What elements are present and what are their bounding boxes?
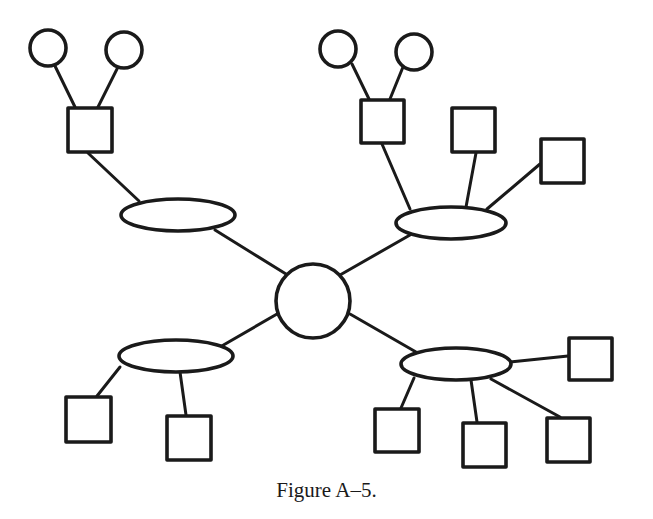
edge-circle-tr-1-to-square-tr-1 — [352, 64, 369, 99]
figure-caption: Figure A–5. — [0, 478, 653, 503]
edge-ellipse-top-right-to-hub — [340, 235, 410, 275]
edge-ellipse-bottom-right-to-square-br-1 — [510, 356, 568, 362]
square-tr-3 — [541, 139, 584, 183]
network-topology-diagram — [0, 0, 653, 519]
hub-circle — [276, 264, 350, 338]
edge-ellipse-bottom-left-to-square-bl-2 — [180, 372, 186, 415]
square-bl-1 — [66, 397, 111, 442]
square-br-3 — [463, 423, 506, 467]
edge-ellipse-bottom-left-to-square-bl-1 — [97, 367, 120, 396]
square-bl-2 — [167, 416, 211, 460]
circle-tr-1 — [320, 31, 356, 67]
edge-circle-tl-2-to-square-tl-1 — [98, 67, 118, 107]
ellipse-top-right — [396, 207, 506, 239]
edge-ellipse-bottom-right-to-square-br-2 — [401, 378, 414, 408]
square-tr-1 — [361, 100, 404, 143]
square-br-1 — [569, 338, 612, 380]
edge-square-tr-1-to-ellipse-top-right — [382, 144, 410, 209]
ellipse-top-left — [121, 199, 235, 231]
edge-hub-to-ellipse-bottom-left — [220, 314, 277, 347]
circle-tr-2 — [396, 34, 432, 70]
edge-square-tr-2-to-ellipse-top-right — [466, 153, 476, 207]
ellipse-bottom-left — [119, 340, 233, 372]
ellipse-bottom-right — [401, 348, 511, 380]
edge-circle-tl-1-to-square-tl-1 — [55, 66, 75, 107]
circle-tl-1 — [30, 30, 66, 66]
edge-square-tl-1-to-ellipse-top-left — [88, 153, 139, 201]
square-tr-2 — [452, 108, 495, 152]
square-tl-1 — [68, 108, 112, 152]
edge-ellipse-bottom-right-to-square-br-4 — [491, 379, 560, 417]
edge-square-tr-3-to-ellipse-top-right — [487, 164, 540, 209]
edge-circle-tr-2-to-square-tr-1 — [390, 67, 403, 99]
square-br-2 — [375, 409, 419, 452]
edge-ellipse-top-left-to-hub — [215, 230, 286, 274]
edge-ellipse-bottom-right-to-square-br-3 — [471, 380, 477, 422]
diagram-nodes — [30, 30, 612, 467]
square-br-4 — [547, 418, 590, 462]
circle-tl-2 — [106, 32, 142, 68]
edge-hub-to-ellipse-bottom-right — [350, 314, 416, 352]
